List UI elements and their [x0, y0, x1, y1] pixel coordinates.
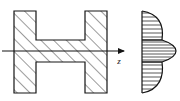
shear-curve-top-flange [142, 11, 162, 40]
ibeam-hatch-fill [14, 11, 107, 93]
beam-shear-figure: z [0, 0, 180, 101]
axis-label-z: z [116, 56, 121, 66]
shear-curve-bottom-flange [142, 62, 162, 93]
shear-stress-diagram [142, 11, 180, 93]
ibeam-cross-section [14, 11, 107, 93]
figure-container: z [0, 0, 180, 101]
shear-hatch-web [142, 42, 180, 60]
